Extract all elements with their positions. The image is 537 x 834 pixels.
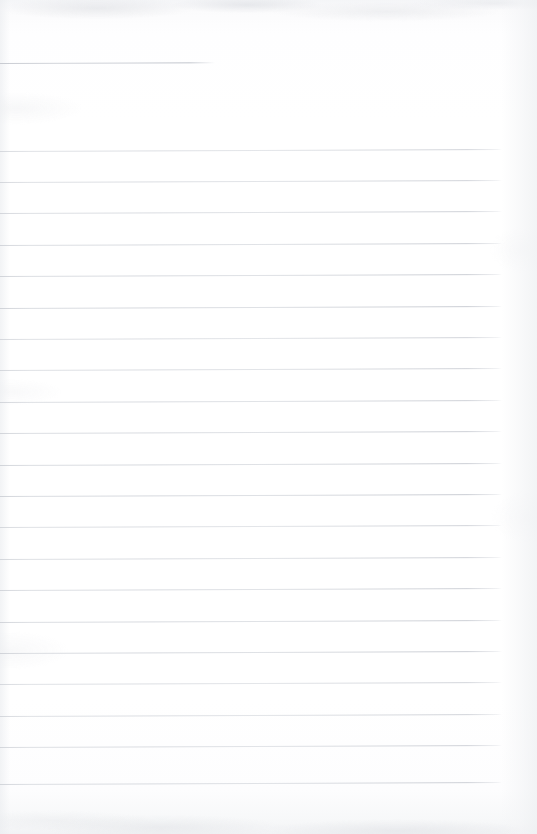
ruled-line — [0, 494, 502, 497]
header-rule — [0, 62, 215, 64]
ruled-line — [0, 557, 502, 560]
ruled-line — [0, 782, 502, 785]
ruled-line — [0, 211, 502, 214]
ruled-line — [0, 588, 502, 591]
ruled-lines-layer — [0, 0, 537, 834]
ruled-line — [0, 337, 502, 340]
ruled-line — [0, 306, 502, 309]
ruled-line — [0, 463, 502, 466]
ruled-line — [0, 274, 502, 277]
ruled-line — [0, 368, 502, 371]
ruled-line — [0, 149, 502, 152]
ruled-line — [0, 180, 502, 183]
ruled-line — [0, 243, 502, 246]
ruled-line — [0, 651, 502, 654]
ruled-line — [0, 682, 502, 685]
ruled-line — [0, 431, 502, 434]
ruled-line — [0, 714, 502, 717]
ruled-line — [0, 620, 502, 623]
ruled-line — [0, 745, 502, 748]
ruled-line — [0, 525, 502, 528]
scanned-page — [0, 0, 537, 834]
ruled-line — [0, 400, 502, 403]
